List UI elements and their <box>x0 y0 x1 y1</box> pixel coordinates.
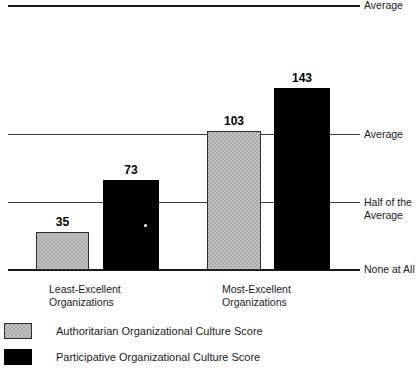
bar-chart: Average Average Half of the Average None… <box>0 0 419 379</box>
legend-label-participative: Participative Organizational Culture Sco… <box>56 350 260 364</box>
bar-most-excellent-participative <box>274 88 330 270</box>
bar-value-label-most-excellent-authoritarian: 103 <box>207 115 261 128</box>
category-label-most-excellent: Most-Excellent Organizations <box>222 283 342 309</box>
bar-value-label-most-excellent-participative: 143 <box>274 72 330 85</box>
axis-tick-label-none-at-all: None at All <box>364 263 415 276</box>
legend-swatch-participative <box>4 349 32 365</box>
axis-tick-label-average: Average <box>364 128 403 141</box>
legend-label-authoritarian: Authoritarian Organizational Culture Sco… <box>56 324 263 338</box>
gridline-top-average <box>8 5 360 7</box>
print-speck-artifact <box>144 224 147 227</box>
bar-least-excellent-participative <box>103 180 159 270</box>
axis-tick-label-top-average: Average <box>364 0 403 12</box>
bar-value-label-least-excellent-participative: 73 <box>103 164 159 177</box>
bar-least-excellent-authoritarian <box>36 232 89 270</box>
axis-tick-label-half-of-average: Half of the Average <box>364 196 412 221</box>
legend-swatch-authoritarian <box>4 323 32 339</box>
category-label-least-excellent: Least-Excellent Organizations <box>49 283 169 309</box>
bar-most-excellent-authoritarian <box>207 131 261 270</box>
bar-value-label-least-excellent-authoritarian: 35 <box>36 216 89 229</box>
